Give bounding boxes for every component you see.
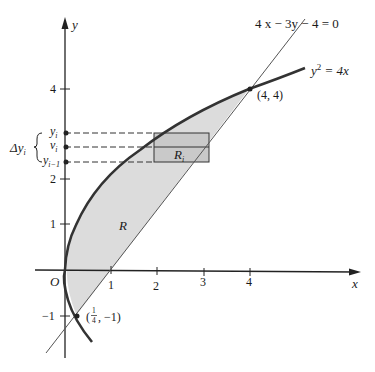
- point-quarter-neg1: [75, 314, 80, 319]
- dot-yi: [64, 131, 69, 136]
- diagram-canvas: y x O 1 2 3 4 4 2 1 −1 4 x − 3y − 4 = 0 …: [0, 0, 375, 372]
- y-tick-4: 4: [50, 82, 56, 96]
- point-4-4: [248, 87, 253, 92]
- point-quarter-neg1-label: ( 1 4 , −1): [86, 306, 121, 325]
- y-tick-1: 1: [50, 217, 56, 231]
- x-axis-arrow-icon: [349, 269, 361, 276]
- point-4-4-label: (4, 4): [257, 88, 283, 102]
- svg-text:(: (: [86, 310, 90, 324]
- x-tick-4: 4: [246, 275, 252, 289]
- line-4x-3y-4: [46, 19, 305, 353]
- svg-text:1: 1: [92, 306, 96, 315]
- delta-yi-label: Δyi: [9, 140, 26, 157]
- svg-text:4: 4: [92, 316, 96, 325]
- origin-label: O: [50, 274, 60, 289]
- vi-label: vi: [50, 138, 58, 154]
- svg-text:, −1): , −1): [98, 310, 121, 324]
- y-tick-neg1: −1: [42, 309, 55, 323]
- brace-icon: [34, 133, 42, 162]
- region-R-label: R: [118, 218, 127, 233]
- dot-yim1: [64, 160, 69, 165]
- y-tick-2: 2: [50, 172, 56, 186]
- dot-vi: [64, 145, 69, 150]
- parabola-equation-label: y2 = 4x: [309, 62, 349, 78]
- y-axis-label: y: [70, 17, 78, 32]
- x-axis-label: x: [351, 276, 358, 291]
- x-tick-2: 2: [153, 279, 159, 293]
- line-equation-label: 4 x − 3y − 4 = 0: [255, 16, 339, 31]
- yim1-label: yi−1: [42, 153, 60, 169]
- x-tick-1: 1: [108, 278, 114, 292]
- x-tick-3: 3: [200, 275, 206, 289]
- y-axis-arrow-icon: [62, 17, 69, 29]
